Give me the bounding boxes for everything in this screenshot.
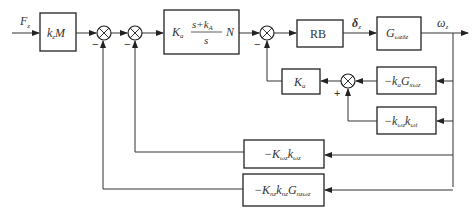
feedback-block-K-k-G: −KnzknzGnzωz	[243, 174, 324, 206]
svg-text:−: −	[124, 38, 130, 50]
block-diagram: Fz kzM − − Ka s+kA s N −	[0, 0, 476, 213]
rb-block: RB	[297, 20, 343, 47]
feedback-block-K-k: −Kωzkωz	[244, 140, 324, 168]
summing-junction-1: −	[92, 26, 111, 50]
inner-gain-block: Ka	[282, 69, 320, 94]
feedback-block-k-k: −kωzkωt	[377, 107, 436, 134]
input-signal: Fz	[12, 14, 39, 33]
feedback-block-ka-G: −kaGxωz	[377, 67, 436, 94]
summing-junction-4: +	[334, 74, 355, 99]
gain-block-kzM: kzM	[40, 13, 76, 51]
svg-text:−: −	[254, 38, 260, 50]
input-label: Fz	[19, 14, 30, 30]
svg-text:−: −	[92, 38, 98, 50]
svg-text:RB: RB	[310, 27, 326, 41]
svg-text:s: s	[204, 34, 208, 46]
summing-junction-2: −	[124, 26, 142, 50]
svg-text:N: N	[225, 25, 235, 39]
summing-junction-3: −	[254, 26, 274, 50]
svg-text:kzM: kzM	[47, 26, 66, 41]
svg-text:+: +	[334, 87, 340, 99]
controller-block: Ka s+kA s N	[164, 10, 239, 54]
output-label: ωz	[437, 16, 448, 31]
delta-label: δz	[352, 16, 361, 31]
plant-block: Gωzδz	[377, 17, 421, 50]
